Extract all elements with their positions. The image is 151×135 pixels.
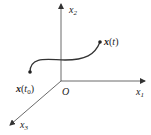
trajectory-diagram: x2 x1 x3 O x(t0) x(t) xyxy=(0,0,151,135)
start-label: x(t0) xyxy=(15,83,34,96)
trajectory-curve xyxy=(30,42,100,72)
end-point xyxy=(98,40,102,44)
diagram-svg: x2 x1 x3 O x(t0) x(t) xyxy=(0,0,151,135)
x1-axis-label: x1 xyxy=(135,86,144,99)
origin-label: O xyxy=(62,86,69,97)
end-label: x(t) xyxy=(103,36,118,48)
x2-axis-label: x2 xyxy=(68,4,77,17)
start-point xyxy=(28,70,32,74)
x3-axis-label: x3 xyxy=(19,119,28,132)
